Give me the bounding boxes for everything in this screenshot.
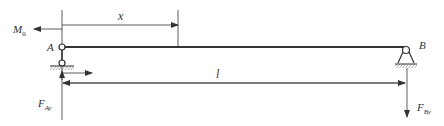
moment-m0: M0: [12, 23, 62, 38]
beam-diagram: x M0 A l FAy B FBy: [0, 0, 444, 126]
support-a-label: A: [46, 41, 54, 53]
support-b: B: [395, 39, 426, 68]
x-dimension: x: [62, 9, 178, 47]
reaction-a-label: FAy: [37, 97, 53, 112]
moment-label: M0: [12, 23, 26, 38]
length-dimension: l: [63, 67, 405, 83]
length-label: l: [216, 67, 220, 81]
support-b-label: B: [419, 39, 426, 51]
reaction-b: FBy: [407, 68, 432, 117]
x-label: x: [117, 9, 124, 23]
support-a: A: [46, 41, 74, 70]
reaction-b-label: FBy: [416, 101, 432, 116]
